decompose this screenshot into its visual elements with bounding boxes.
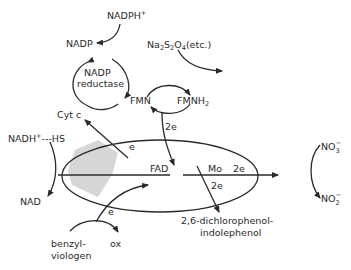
label-fmnh2: FMNH2 bbox=[177, 95, 209, 108]
label-mo-2e: 2e bbox=[233, 163, 245, 174]
label-benzylviologen-1: benzyl- bbox=[51, 238, 86, 249]
label-dcpip-2: indolephenol bbox=[200, 227, 261, 238]
arrow-nitrate-to-nitrite bbox=[311, 145, 320, 198]
label-mo: Mo bbox=[208, 163, 222, 174]
arrow-benzylviologen-to-ox bbox=[70, 221, 118, 232]
label-nad: NAD bbox=[20, 196, 41, 207]
label-nadp-reductase-2: reductase bbox=[77, 78, 124, 89]
label-cyt-c: Cyt c bbox=[57, 109, 81, 120]
nadp-reductase-cycle-bottom bbox=[88, 104, 118, 110]
arrow-dithionite bbox=[178, 50, 222, 71]
label-cyt-e: e bbox=[129, 141, 135, 152]
label-benzylviologen-2: viologen bbox=[51, 250, 91, 261]
arrow-nadh-to-nad bbox=[48, 142, 56, 196]
label-bv-e: e bbox=[108, 206, 114, 217]
label-nadp: NADP bbox=[66, 38, 93, 49]
label-nitrate: NO3− bbox=[321, 139, 341, 155]
shaded-region bbox=[68, 140, 118, 197]
label-dithionite: Na2S2O4(etc.) bbox=[147, 39, 211, 52]
arrow-nadph-to-nadp bbox=[97, 24, 120, 43]
label-ox: ox bbox=[110, 238, 122, 249]
label-dcpip-2e: 2e bbox=[211, 180, 223, 191]
label-dcpip-1: 2,6-dichlorophenol- bbox=[181, 215, 273, 226]
label-nadh-hs: NADH+---HS bbox=[8, 132, 65, 144]
label-fmn: FMN bbox=[130, 95, 151, 106]
label-nadph: NADPH+ bbox=[107, 9, 146, 21]
label-fad: FAD bbox=[150, 163, 168, 174]
nitrate-reductase-diagram: NADPH+ NADP NADP reductase Na2S2O4(etc.)… bbox=[0, 0, 351, 270]
label-fmn-2e: 2e bbox=[165, 121, 177, 132]
arrow-bv-e-into-enzyme bbox=[96, 185, 148, 222]
label-nadp-reductase-1: NADP bbox=[84, 67, 111, 78]
label-nitrite: NO2− bbox=[321, 191, 341, 207]
